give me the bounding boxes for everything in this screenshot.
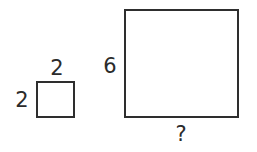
large-square: [124, 9, 239, 118]
large-square-left-label: 6: [100, 56, 120, 77]
small-square: [36, 81, 75, 118]
small-square-left-label: 2: [12, 90, 32, 111]
small-square-top-label: 2: [47, 58, 67, 79]
large-square-bottom-label: ?: [171, 124, 191, 145]
